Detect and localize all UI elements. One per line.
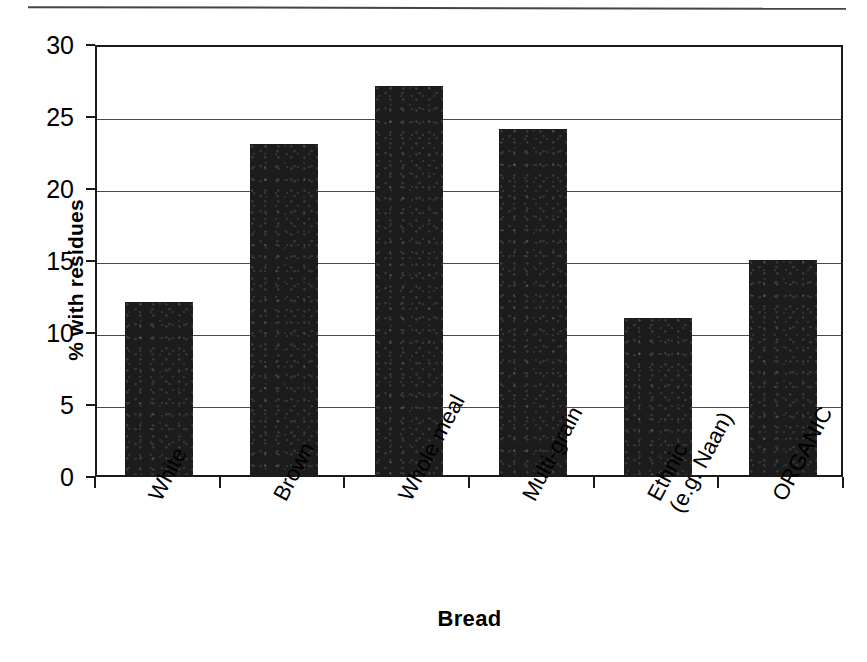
y-axis-tick-mark [86,44,95,46]
x-axis-tick-mark [94,477,96,488]
y-axis-tick-label: 25 [46,103,74,132]
bar [250,144,318,475]
x-axis-tick-mark [842,477,844,488]
plot-area [95,45,843,477]
x-axis-tick-mark [593,477,595,488]
x-axis-tick-mark [468,477,470,488]
x-axis-title-text: Bread [438,606,502,632]
y-axis-title-wrapper: % with residues [42,190,82,370]
y-axis-tick-label: 30 [46,31,74,60]
bar-chart-figure: 051015202530 % with residues WhiteBrownW… [0,0,867,662]
y-axis-title: % with residues [64,140,88,420]
y-axis-tick-label: 0 [60,463,74,492]
x-axis-title: Bread [0,606,867,632]
bar-series [97,47,841,475]
x-axis-tick-mark [717,477,719,488]
x-axis-tick-mark [219,477,221,488]
x-axis-tick-mark [343,477,345,488]
bar [125,302,193,475]
y-axis-tick-mark [86,116,95,118]
